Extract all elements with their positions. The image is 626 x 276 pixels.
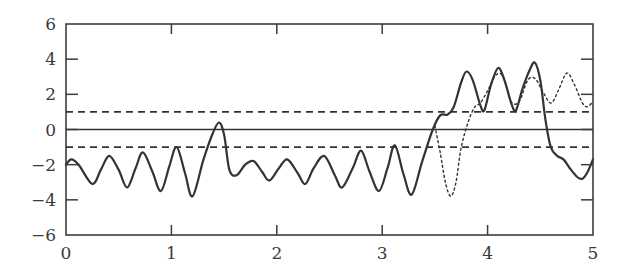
y-tick-label: 4 (45, 49, 56, 69)
x-tick-label: 4 (482, 243, 493, 263)
y-tick-label: 2 (45, 84, 56, 104)
y-tick-label: 0 (45, 120, 56, 140)
line-chart: 012345 −6−4−20246 (0, 0, 626, 276)
y-tick-label: 6 (45, 14, 56, 34)
x-tick-label: 2 (271, 243, 282, 263)
y-tick-label: −6 (31, 225, 56, 245)
reference-lines (66, 112, 593, 147)
y-tick-label: −2 (31, 155, 56, 175)
x-tick-label: 1 (166, 243, 177, 263)
x-axis: 012345 (61, 24, 599, 263)
x-tick-label: 3 (377, 243, 388, 263)
x-tick-label: 5 (588, 243, 599, 263)
y-tick-label: −4 (31, 190, 56, 210)
x-tick-label: 0 (61, 243, 72, 263)
